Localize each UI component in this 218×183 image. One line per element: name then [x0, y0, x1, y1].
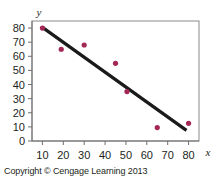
x-tick-label: 10 [36, 149, 48, 161]
data-point [124, 89, 129, 94]
y-tick-label: 70 [13, 36, 25, 48]
y-tick-label: 50 [13, 64, 25, 76]
x-tick-label: 40 [99, 149, 111, 161]
scatter-plot-figure: 010203040506070801020304050607080yx Copy… [0, 0, 218, 183]
y-tick-label: 10 [13, 121, 25, 133]
y-tick-label: 60 [13, 50, 25, 62]
copyright-caption: Copyright © Cengage Learning 2013 [4, 166, 147, 176]
y-tick-label: 80 [13, 22, 25, 34]
data-point [186, 121, 191, 126]
y-tick-label: 30 [13, 93, 25, 105]
data-point [82, 42, 87, 47]
y-tick-label: 0 [19, 135, 25, 147]
x-tick-label: 50 [120, 149, 132, 161]
x-tick-label: 80 [182, 149, 194, 161]
y-tick-label: 20 [13, 107, 25, 119]
x-tick-label: 60 [141, 149, 153, 161]
y-axis-title: y [36, 6, 42, 18]
data-point [40, 25, 45, 30]
data-point [155, 125, 160, 130]
data-point [113, 61, 118, 66]
x-tick-label: 70 [162, 149, 174, 161]
y-tick-label: 40 [13, 79, 25, 91]
x-tick-label: 30 [78, 149, 90, 161]
scatter-plot-svg: 010203040506070801020304050607080yx [0, 0, 218, 183]
x-tick-label: 20 [57, 149, 69, 161]
data-point [59, 47, 64, 52]
x-axis-title: x [205, 146, 211, 158]
